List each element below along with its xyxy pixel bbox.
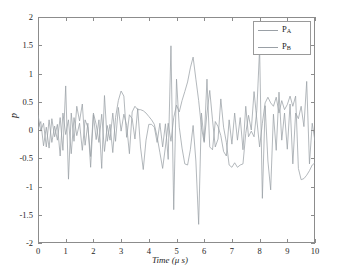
- y-tick-right-1: [311, 215, 315, 216]
- x-tick-7: [232, 239, 233, 243]
- series-line-pa: [38, 46, 315, 225]
- y-tick-label-6: 1: [7, 69, 33, 79]
- x-tick-top-7: [232, 17, 233, 21]
- y-tick-label-1: -1.5: [7, 210, 33, 220]
- x-tick-10: [315, 239, 316, 243]
- y-tick-label-4: 0: [7, 125, 33, 135]
- y-tick-1: [38, 215, 42, 216]
- y-tick-right-0: [311, 243, 315, 244]
- x-tick-1: [66, 239, 67, 243]
- legend-box: PA PB: [253, 21, 311, 55]
- x-tick-top-6: [204, 17, 205, 21]
- legend-label-pa: PA: [282, 24, 291, 34]
- legend-item-pa[interactable]: PA: [254, 22, 312, 39]
- y-tick-label-7: 1.5: [7, 40, 33, 50]
- y-tick-3: [38, 158, 42, 159]
- x-tick-top-2: [93, 17, 94, 21]
- y-tick-label-5: 0.5: [7, 97, 33, 107]
- y-tick-label-2: -1: [7, 182, 33, 192]
- y-tick-5: [38, 102, 42, 103]
- x-tick-top-1: [66, 17, 67, 21]
- x-tick-5: [177, 239, 178, 243]
- y-tick-right-8: [311, 17, 315, 18]
- x-axis-title: Time (μ s): [0, 255, 340, 265]
- legend-label-pa-sub: A: [287, 27, 291, 34]
- y-tick-right-4: [311, 130, 315, 131]
- x-tick-top-3: [121, 17, 122, 21]
- y-tick-right-5: [311, 102, 315, 103]
- y-tick-label-3: -0.5: [7, 153, 33, 163]
- x-tick-3: [121, 239, 122, 243]
- y-tick-right-2: [311, 187, 315, 188]
- legend-label-pb: PB: [282, 41, 291, 51]
- y-axis-title: p: [8, 113, 19, 118]
- x-tick-8: [260, 239, 261, 243]
- y-tick-label-0: -2: [7, 238, 33, 248]
- legend-item-pb[interactable]: PB: [254, 39, 312, 56]
- x-tick-top-4: [149, 17, 150, 21]
- y-tick-4: [38, 130, 42, 131]
- y-tick-2: [38, 187, 42, 188]
- x-tick-top-5: [177, 17, 178, 21]
- y-tick-6: [38, 74, 42, 75]
- y-tick-7: [38, 45, 42, 46]
- x-tick-4: [149, 239, 150, 243]
- x-tick-6: [204, 239, 205, 243]
- y-tick-label-8: 2: [7, 12, 33, 22]
- legend-swatch-pb: [258, 47, 278, 48]
- figure-chart-root: 012345678910-2-1.5-1-0.500.511.52 Time (…: [0, 0, 340, 277]
- legend-label-pb-sub: B: [287, 44, 291, 51]
- y-tick-0: [38, 243, 42, 244]
- legend-swatch-pa: [258, 30, 278, 31]
- x-tick-9: [287, 239, 288, 243]
- y-tick-8: [38, 17, 42, 18]
- x-tick-2: [93, 239, 94, 243]
- y-tick-right-3: [311, 158, 315, 159]
- y-tick-right-6: [311, 74, 315, 75]
- x-tick-top-10: [315, 17, 316, 21]
